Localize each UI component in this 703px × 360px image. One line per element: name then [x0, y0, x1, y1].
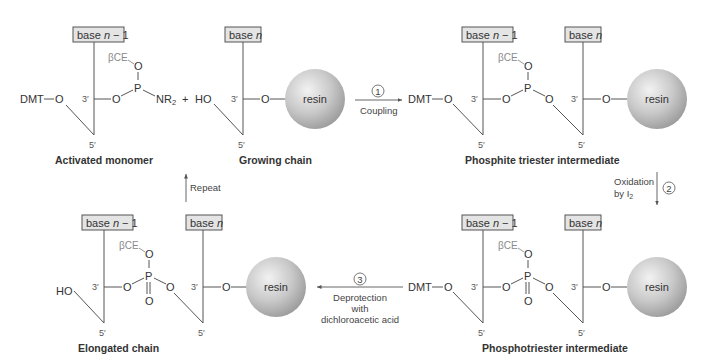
- svg-text:O: O: [524, 295, 533, 307]
- svg-text:O: O: [145, 295, 154, 307]
- svg-text:O: O: [524, 248, 533, 260]
- elongated-chain-caption: Elongated chain: [78, 342, 159, 354]
- svg-text:by I2: by I2: [614, 188, 633, 200]
- base-box: base n − 1: [82, 215, 138, 230]
- svg-text:5′: 5′: [578, 328, 585, 338]
- svg-text:resin: resin: [264, 281, 288, 293]
- svg-text:HO: HO: [56, 285, 73, 297]
- svg-text:resin: resin: [645, 281, 669, 293]
- base-box: base n: [225, 27, 262, 42]
- svg-text:base n: base n: [229, 29, 262, 41]
- svg-text:βCE: βCE: [119, 240, 139, 251]
- svg-text:3′: 3′: [231, 94, 238, 104]
- svg-text:O: O: [134, 60, 143, 72]
- base-box: base n − 1: [462, 27, 518, 42]
- svg-text:O: O: [145, 248, 154, 260]
- svg-text:O: O: [55, 93, 64, 105]
- base-box: base n: [565, 215, 602, 230]
- growing-chain: base n HO 3′ O resin 5′ Growing chain: [195, 27, 345, 166]
- svg-text:base n: base n: [190, 217, 223, 229]
- phosphite-triester-caption: Phosphite triester intermediate: [465, 154, 620, 166]
- base-box: base n − 1: [73, 27, 129, 42]
- growing-chain-caption: Growing chain: [239, 154, 312, 166]
- svg-text:O: O: [602, 93, 611, 105]
- svg-text:O: O: [112, 93, 121, 105]
- svg-text:P: P: [524, 82, 531, 94]
- phosphotriester-intermediate: DMT O base n − 1 3′ O P O βCE O O base n…: [408, 215, 687, 354]
- svg-text:DMT: DMT: [408, 93, 432, 105]
- svg-text:3′: 3′: [571, 94, 578, 104]
- svg-text:O: O: [222, 281, 231, 293]
- svg-text:O: O: [166, 281, 175, 293]
- step-2-oxidation: Oxidation by I2 2: [614, 172, 675, 205]
- step-3-deprotection: 3 Deprotection with dichloroacetic acid: [317, 273, 403, 325]
- dmt-label: DMT: [20, 93, 44, 105]
- svg-text:5′: 5′: [238, 140, 245, 150]
- svg-text:O: O: [502, 93, 511, 105]
- activated-monomer: base n − 1 DMT O 3′ O P O βCE NR2 5′ Act…: [20, 27, 176, 166]
- svg-text:Deprotection: Deprotection: [333, 292, 387, 303]
- repeat-cycle: Repeat: [186, 174, 221, 202]
- svg-text:P: P: [145, 270, 152, 282]
- svg-text:base n: base n: [569, 29, 602, 41]
- svg-text:3′: 3′: [82, 94, 89, 104]
- svg-text:base n − 1: base n − 1: [466, 29, 518, 41]
- base-box: base n: [186, 215, 223, 230]
- svg-text:5′: 5′: [478, 140, 485, 150]
- svg-text:O: O: [602, 281, 611, 293]
- svg-text:O: O: [502, 281, 511, 293]
- svg-text:O: O: [123, 281, 132, 293]
- svg-text:P: P: [524, 270, 531, 282]
- svg-text:3: 3: [357, 274, 362, 285]
- svg-text:5′: 5′: [99, 328, 106, 338]
- svg-text:3′: 3′: [471, 94, 478, 104]
- svg-text:dichloroacetic acid: dichloroacetic acid: [321, 314, 399, 325]
- plus-sign: +: [182, 93, 188, 105]
- svg-text:5′: 5′: [478, 328, 485, 338]
- base-box: base n: [565, 27, 602, 42]
- svg-text:5′: 5′: [578, 140, 585, 150]
- step-1-coupling: 1 Coupling: [355, 85, 402, 116]
- svg-text:O: O: [545, 93, 554, 105]
- oligonucleotide-synthesis-diagram: base n − 1 DMT O 3′ O P O βCE NR2 5′ Act…: [0, 0, 703, 360]
- svg-text:3′: 3′: [471, 282, 478, 292]
- svg-text:P: P: [134, 82, 141, 94]
- svg-text:Repeat: Repeat: [190, 182, 221, 193]
- phosphotriester-caption: Phosphotriester intermediate: [482, 342, 628, 354]
- svg-text:3′: 3′: [92, 282, 99, 292]
- svg-text:base n: base n: [569, 217, 602, 229]
- svg-text:HO: HO: [195, 93, 212, 105]
- activated-monomer-caption: Activated monomer: [55, 154, 153, 166]
- svg-text:base n − 1: base n − 1: [86, 217, 138, 229]
- svg-text:O: O: [444, 281, 453, 293]
- svg-text:O: O: [545, 281, 554, 293]
- svg-text:5′: 5′: [89, 140, 96, 150]
- svg-text:base n − 1: base n − 1: [466, 217, 518, 229]
- svg-text:with: with: [351, 303, 369, 314]
- svg-text:NR2: NR2: [156, 93, 176, 107]
- svg-text:DMT: DMT: [408, 281, 432, 293]
- svg-text:resin: resin: [645, 93, 669, 105]
- svg-text:O: O: [524, 60, 533, 72]
- svg-text:βCE: βCE: [498, 240, 518, 251]
- svg-text:βCE: βCE: [498, 52, 518, 63]
- svg-text:O: O: [444, 93, 453, 105]
- svg-text:3′: 3′: [191, 282, 198, 292]
- svg-text:3′: 3′: [571, 282, 578, 292]
- svg-text:Coupling: Coupling: [360, 105, 398, 116]
- svg-text:resin: resin: [303, 93, 327, 105]
- phosphite-triester-intermediate: DMT O base n − 1 3′ O P O βCE O base n 3…: [408, 27, 687, 166]
- svg-text:2: 2: [666, 183, 671, 194]
- svg-text:Oxidation: Oxidation: [614, 176, 654, 187]
- base-box: base n − 1: [462, 215, 518, 230]
- svg-text:base n − 1: base n − 1: [77, 29, 129, 41]
- svg-text:O: O: [261, 93, 270, 105]
- svg-text:5′: 5′: [198, 328, 205, 338]
- elongated-chain: base n − 1 HO 3′ O P O βCE O O base n 3′…: [56, 215, 306, 354]
- svg-text:1: 1: [375, 86, 380, 97]
- bce-label: βCE: [108, 52, 128, 63]
